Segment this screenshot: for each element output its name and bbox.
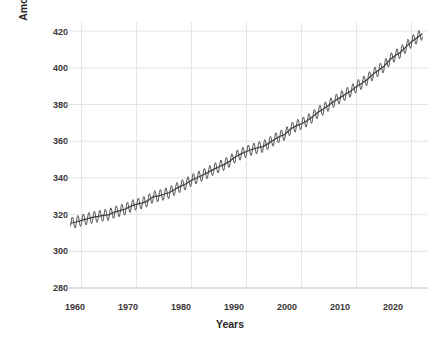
plot-area: [0, 0, 434, 351]
co2-line-chart: Amount of carbon dioxide (parts per mill…: [0, 0, 434, 351]
